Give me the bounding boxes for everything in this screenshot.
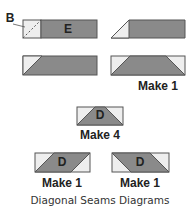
label-d-bottom-right: D: [130, 155, 150, 169]
caption-bottom-right: Make 1: [110, 176, 170, 190]
label-e: E: [58, 22, 78, 36]
label-d-middle: D: [90, 108, 110, 122]
label-d-bottom-left: D: [52, 155, 72, 169]
unit-folded: [111, 20, 185, 38]
caption-row2-right: Make 1: [128, 79, 188, 93]
label-b: B: [4, 11, 16, 25]
caption-middle: Make 4: [70, 128, 130, 142]
unit-row2-right: [111, 56, 185, 75]
unit-b-e: [13, 20, 97, 38]
diagram-title: Diagonal Seams Diagrams: [10, 194, 190, 206]
unit-row2-left: [23, 56, 97, 75]
caption-bottom-left: Make 1: [32, 176, 92, 190]
